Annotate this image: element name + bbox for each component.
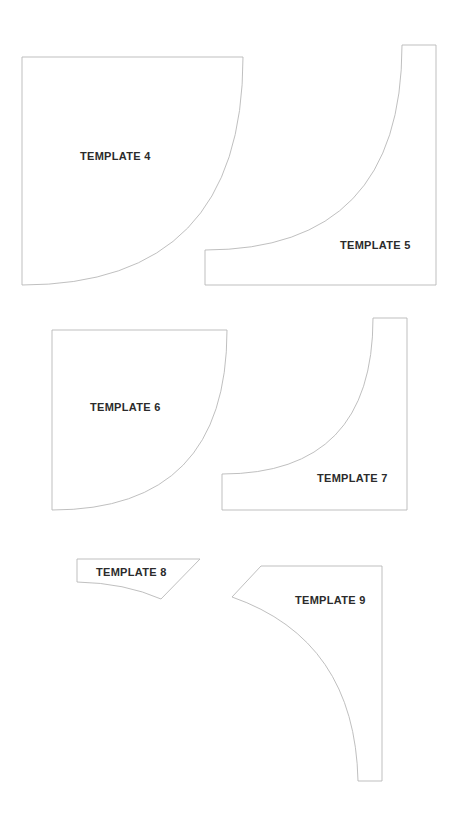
template-8-label: TEMPLATE 8 — [96, 566, 167, 578]
template-6-label: TEMPLATE 6 — [90, 401, 161, 413]
template-8-shape — [77, 559, 200, 599]
template-7-label: TEMPLATE 7 — [317, 472, 388, 484]
template-sheet — [0, 0, 452, 824]
template-5-label: TEMPLATE 5 — [340, 239, 411, 251]
template-4-label: TEMPLATE 4 — [80, 150, 151, 162]
template-6-shape — [52, 330, 227, 510]
template-9-label: TEMPLATE 9 — [295, 594, 366, 606]
